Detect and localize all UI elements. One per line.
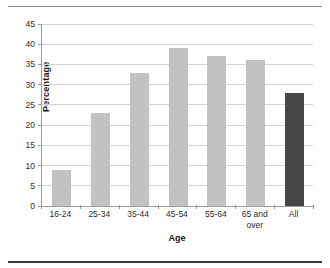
y-tick-label: 45 [26, 19, 35, 29]
y-tick-label: 5 [30, 181, 35, 191]
bottom-divider-rule [8, 261, 322, 263]
x-tick-mark [313, 205, 314, 209]
y-tick-label: 20 [26, 120, 35, 130]
x-tick-label: All [274, 209, 313, 220]
x-tick-label: 55-64 [196, 209, 235, 220]
x-axis-title: Age [41, 233, 313, 243]
bar-55-64 [207, 56, 226, 206]
x-tick-label: 16-24 [41, 209, 80, 220]
x-tick-label: 35-44 [119, 209, 158, 220]
bar-25-34 [91, 113, 110, 206]
x-tick-label: 65 and over [235, 209, 274, 231]
y-tick-label: 15 [26, 140, 35, 150]
x-tick-label: 25-34 [80, 209, 119, 220]
y-tick-label: 10 [26, 161, 35, 171]
y-tick-label: 35 [26, 59, 35, 69]
y-tick-label: 40 [26, 39, 35, 49]
y-tick-label: 30 [26, 80, 35, 90]
bar-all [285, 93, 304, 206]
bar-65-and-over [246, 60, 265, 206]
bar-16-24 [52, 170, 71, 206]
y-tick-label: 25 [26, 100, 35, 110]
figure: Percentage 051015202530354045 16-2425-34… [0, 0, 330, 268]
bar-35-44 [130, 73, 149, 206]
bar-45-54 [169, 48, 188, 206]
plot-area: Percentage 051015202530354045 [41, 24, 313, 206]
bar-series [42, 24, 313, 206]
y-tick-label: 0 [30, 201, 35, 211]
top-divider-rule [8, 6, 322, 7]
x-tick-label: 45-54 [158, 209, 197, 220]
